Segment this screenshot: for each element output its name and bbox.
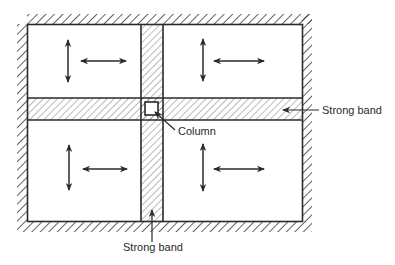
wall-hatch bbox=[17, 14, 312, 232]
panel-top-left-arrows bbox=[68, 40, 126, 82]
label-strong-band-bottom: Strong band bbox=[123, 241, 183, 253]
strong-band-diagram: Strong band Strong band Column bbox=[0, 0, 395, 265]
panel-bottom-right-arrows bbox=[203, 144, 264, 191]
panel-top-right-arrows bbox=[203, 39, 264, 81]
label-column: Column bbox=[178, 125, 216, 137]
strong-band-horizontal bbox=[28, 98, 302, 120]
panel-bottom-left-arrows bbox=[69, 145, 127, 190]
label-strong-band-right: Strong band bbox=[322, 104, 382, 116]
strong-band-vertical bbox=[141, 24, 163, 221]
